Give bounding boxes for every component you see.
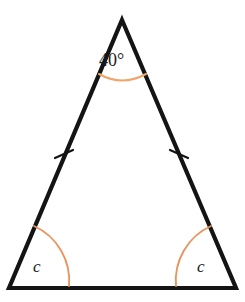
figure-root: 40° c c xyxy=(0,0,245,302)
apex-angle-label: 40° xyxy=(99,51,124,69)
right-base-angle-label: c xyxy=(197,258,205,275)
left-base-angle-label: c xyxy=(33,258,41,275)
